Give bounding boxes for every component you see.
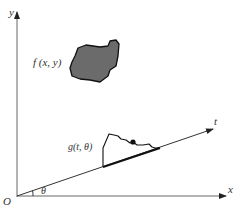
object-label: f (x, y): [33, 56, 62, 69]
origin-label: O: [3, 195, 11, 207]
projection-point: [130, 139, 135, 144]
radon-transform-diagram: y x t O θ f (x, y) g(t, θ): [0, 0, 237, 215]
angle-arc: [33, 191, 34, 196]
y-axis-label: y: [8, 6, 14, 18]
angle-label: θ: [41, 185, 46, 196]
projection-base: [103, 148, 160, 167]
diagram-canvas: y x t O θ f (x, y) g(t, θ): [0, 0, 237, 215]
projection-label: g(t, θ): [68, 141, 93, 153]
object-shape: [70, 40, 119, 82]
t-axis-label: t: [214, 115, 218, 127]
x-axis-label: x: [227, 183, 233, 195]
